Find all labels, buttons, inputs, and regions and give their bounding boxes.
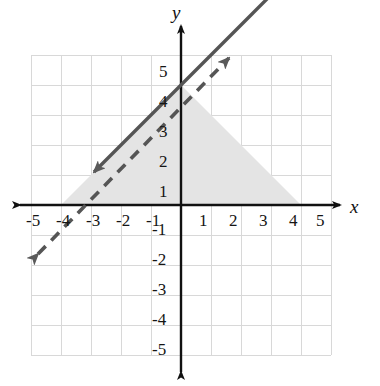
x-tick-label: 5 — [316, 211, 325, 231]
x-tick-label: -4 — [56, 211, 70, 231]
plot-canvas — [0, 0, 380, 386]
x-tick-label: 4 — [289, 211, 298, 231]
y-tick-label: 1 — [159, 182, 168, 202]
y-tick-label: 4 — [159, 92, 168, 112]
x-tick-label: -5 — [26, 211, 40, 231]
x-tick-label: 3 — [259, 211, 268, 231]
y-tick-label: -1 — [152, 220, 166, 240]
x-tick-label: -2 — [116, 211, 130, 231]
x-axis-label: x — [350, 196, 358, 218]
x-tick-label: -3 — [86, 211, 100, 231]
y-tick-label: -2 — [152, 250, 166, 270]
coordinate-plane-figure: x y -5-4-3-2-11234554321-1-2-3-4-5 — [0, 0, 380, 386]
y-tick-label: 2 — [159, 152, 168, 172]
y-tick-label: -3 — [152, 280, 166, 300]
y-tick-label: 3 — [159, 122, 168, 142]
y-tick-label: -5 — [152, 340, 166, 360]
x-tick-label: 2 — [229, 211, 238, 231]
y-tick-label: 5 — [159, 62, 168, 82]
y-tick-label: -4 — [152, 310, 166, 330]
x-tick-label: 1 — [199, 211, 208, 231]
y-axis-label: y — [172, 2, 180, 24]
